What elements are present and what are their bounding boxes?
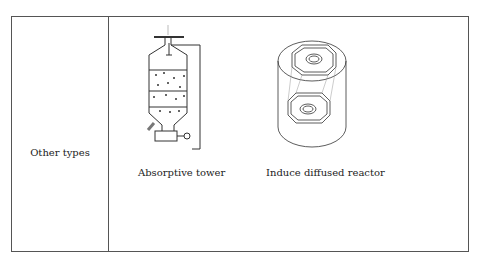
figure-caption: Absorptive tower	[138, 167, 225, 178]
row-label: Other types	[12, 147, 108, 158]
induce-diffused-reactor-diagram	[274, 39, 354, 151]
absorptive-tower-diagram	[144, 25, 224, 155]
figure-caption: Induce diffused reactor	[266, 167, 385, 178]
comparison-table: Other types	[11, 16, 469, 252]
column-divider	[108, 17, 109, 251]
